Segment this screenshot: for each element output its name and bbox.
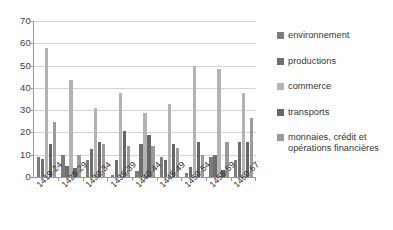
bar-group xyxy=(157,21,182,177)
legend-label: transports xyxy=(288,107,329,118)
bar-group xyxy=(59,21,84,177)
x-axis-group-tick xyxy=(132,177,133,181)
y-axis-tick-label: 50 xyxy=(3,61,31,71)
legend-swatch-icon xyxy=(277,134,284,141)
y-axis-tick-label: 40 xyxy=(3,83,31,93)
y-axis-tick-label: 20 xyxy=(3,127,31,137)
y-axis-tick-label: 70 xyxy=(3,16,31,26)
y-axis-tick-label: 0 xyxy=(3,172,31,182)
legend-item[interactable]: commerce xyxy=(277,81,393,92)
bar-chart: 706050403020100 1419-241425-291430-34143… xyxy=(0,0,393,230)
bar[interactable] xyxy=(193,66,196,177)
legend-item[interactable]: transports xyxy=(277,107,393,118)
y-axis-tick-label: 60 xyxy=(3,38,31,48)
bar[interactable] xyxy=(242,93,245,177)
legend-swatch-icon xyxy=(277,83,284,90)
bar[interactable] xyxy=(94,108,97,177)
legend-swatch-icon xyxy=(277,58,284,65)
legend-item[interactable]: monnaies, crédit et opérations financièr… xyxy=(277,132,393,154)
bar-group xyxy=(108,21,133,177)
legend-label: commerce xyxy=(288,81,331,92)
legend-label: monnaies, crédit et opérations financièr… xyxy=(288,132,393,154)
bar-group xyxy=(207,21,232,177)
y-axis-tick-label: 30 xyxy=(3,105,31,115)
legend-label: environnement xyxy=(288,30,349,41)
chart-legend: environnementproductionscommercetranspor… xyxy=(277,30,393,169)
bar[interactable] xyxy=(45,48,48,177)
bar[interactable] xyxy=(217,69,220,177)
x-axis-group-tick xyxy=(206,177,207,181)
y-axis: 706050403020100 xyxy=(0,0,31,230)
bar-group xyxy=(182,21,207,177)
legend-label: productions xyxy=(288,56,336,67)
bar[interactable] xyxy=(69,80,72,177)
legend-swatch-icon xyxy=(277,32,284,39)
bar[interactable] xyxy=(168,104,171,177)
legend-item[interactable]: productions xyxy=(277,56,393,67)
bar-group xyxy=(34,21,59,177)
legend-swatch-icon xyxy=(277,109,284,116)
bar[interactable] xyxy=(143,113,146,177)
legend-item[interactable]: environnement xyxy=(277,30,393,41)
bar[interactable] xyxy=(119,93,122,177)
bar-group xyxy=(231,21,256,177)
plot-area xyxy=(34,21,256,177)
bar-group xyxy=(83,21,108,177)
bar-group xyxy=(133,21,158,177)
y-axis-tick-label: 10 xyxy=(3,150,31,160)
x-axis-group-tick xyxy=(255,177,256,181)
x-axis-group-tick xyxy=(58,177,59,181)
bar[interactable] xyxy=(37,157,40,177)
